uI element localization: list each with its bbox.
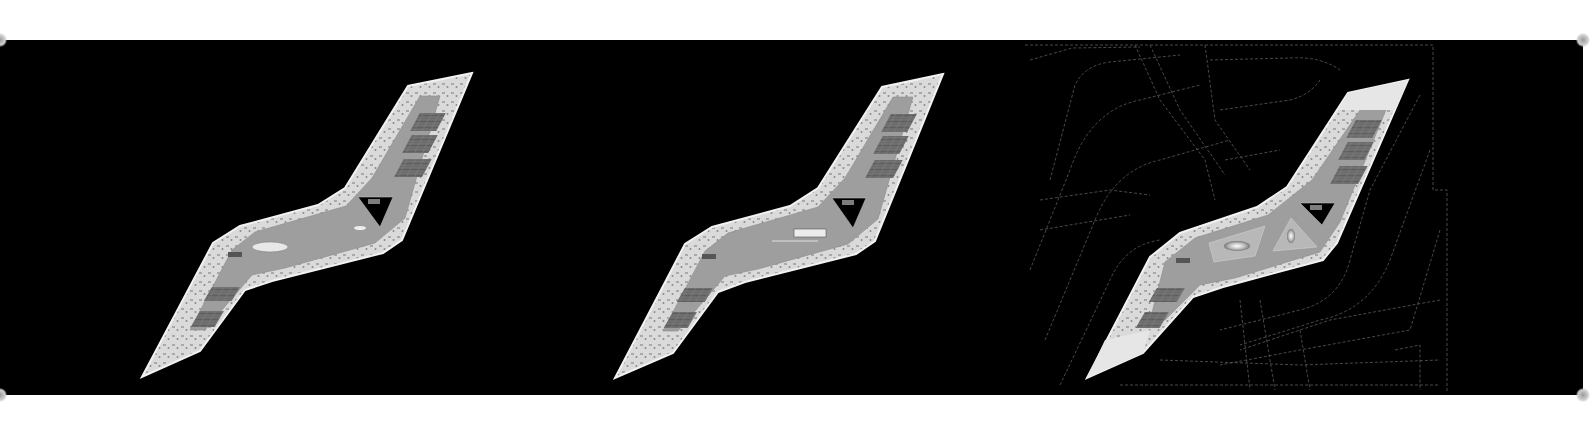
- meeting-table: [252, 242, 288, 252]
- skylight-feature: [1224, 241, 1250, 251]
- stair-icon: [368, 199, 380, 204]
- floor-plan-1: [142, 73, 472, 377]
- floor-plan-2: [615, 74, 943, 378]
- elevator-bank: [1176, 258, 1190, 263]
- lobby-end: [1087, 330, 1150, 378]
- stair-icon: [842, 200, 854, 205]
- elevator-bank: [702, 254, 716, 259]
- light-fixture: [354, 226, 366, 230]
- elevator-bank: [228, 252, 242, 257]
- floor-plan-3: [1087, 80, 1408, 378]
- stair-icon: [1310, 205, 1322, 210]
- skylight-feature: [1287, 229, 1295, 243]
- boardroom-table: [794, 229, 826, 237]
